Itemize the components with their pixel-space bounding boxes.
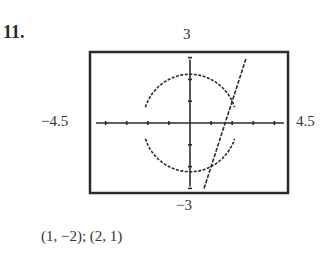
- axes: [96, 58, 284, 189]
- calculator-graph: [0, 0, 327, 253]
